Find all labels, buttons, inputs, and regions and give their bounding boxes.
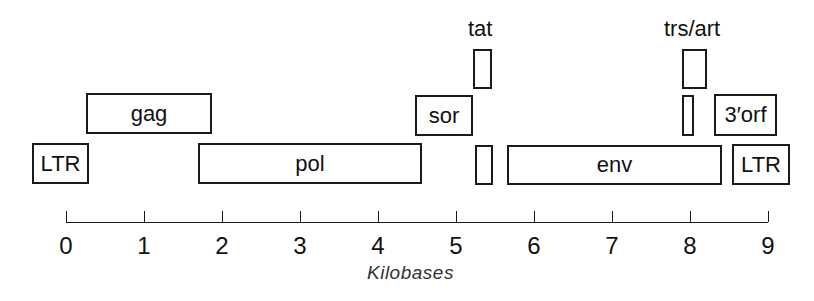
x-tick (378, 211, 379, 222)
x-tick-label: 8 (675, 232, 705, 260)
x-tick (66, 211, 67, 222)
trs-art-exon1-box (682, 49, 707, 89)
ltr-right-box: LTR (732, 144, 790, 185)
ltr-left-box: LTR (32, 143, 89, 184)
x-tick (612, 211, 613, 222)
x-tick (222, 211, 223, 222)
x-tick-label: 4 (363, 232, 393, 260)
x-tick (768, 211, 769, 222)
trs-art-exon2-box (682, 95, 694, 136)
gag-box: gag (86, 93, 212, 134)
ltr-left-label: LTR (41, 153, 81, 175)
sor-label: sor (429, 105, 460, 127)
x-tick-label: 2 (207, 232, 237, 260)
3-orf-label: 3′orf (724, 104, 766, 126)
trs-art-label: trs/art (664, 18, 720, 40)
3-orf-box: 3′orf (714, 94, 777, 136)
x-tick-label: 3 (285, 232, 315, 260)
x-tick-label: 7 (597, 232, 627, 260)
ltr-right-label: LTR (741, 154, 781, 176)
x-tick (300, 211, 301, 222)
env-label: env (597, 154, 632, 176)
pol-label: pol (295, 153, 324, 175)
x-tick (456, 211, 457, 222)
tat-label: tat (468, 18, 492, 40)
pol-box: pol (198, 143, 422, 184)
x-tick-label: 1 (129, 232, 159, 260)
x-axis-title: Kilobases (367, 262, 454, 284)
x-tick (690, 211, 691, 222)
x-tick-label: 0 (51, 232, 81, 260)
gag-label: gag (131, 103, 168, 125)
env-box: env (507, 145, 722, 185)
x-tick-label: 5 (441, 232, 471, 260)
x-tick (144, 211, 145, 222)
tat-exon2-box (475, 145, 493, 185)
x-tick-label: 6 (519, 232, 549, 260)
x-tick (534, 211, 535, 222)
x-tick-label: 9 (753, 232, 783, 260)
tat-exon1-box (473, 49, 492, 89)
x-axis-line (66, 222, 768, 223)
sor-box: sor (415, 95, 473, 136)
